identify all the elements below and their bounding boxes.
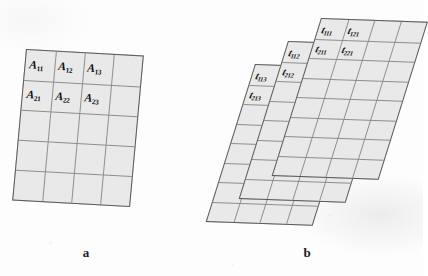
grid-vline <box>71 53 86 203</box>
cell-label-t121: t121 <box>346 26 362 38</box>
cell-label-a12: A12 <box>58 61 74 75</box>
label-subscript: 21 <box>34 95 41 103</box>
cell-label-t211: t211 <box>314 44 329 56</box>
label-subscript: 211 <box>317 49 328 56</box>
label-subscript: 111 <box>323 29 334 36</box>
label-subscript: 112 <box>290 52 301 59</box>
panel-a-caption: a <box>66 245 106 261</box>
label-subscript: 23 <box>91 98 98 106</box>
panel-a-matrix-grid: A11A12A13A21A22A23 <box>12 49 144 207</box>
cell-label-t112: t112 <box>287 48 302 60</box>
label-subscript: 113 <box>257 75 268 82</box>
panel-b-caption: b <box>287 245 327 261</box>
grid-vline <box>100 55 115 205</box>
label-subscript: 212 <box>284 72 295 79</box>
cell-label-a11: A11 <box>29 59 44 73</box>
cell-label-t212: t212 <box>281 67 297 79</box>
label-subscript: 121 <box>349 30 360 37</box>
label-subscript: 213 <box>251 95 262 102</box>
label-subscript: 22 <box>63 96 70 104</box>
cell-label-a13: A13 <box>87 62 103 76</box>
cell-label-t221: t221 <box>340 45 356 57</box>
cell-label-a22: A22 <box>55 91 71 105</box>
label-subscript: 11 <box>36 65 43 73</box>
cell-label-t213: t213 <box>248 90 264 102</box>
grid-vline <box>42 52 57 202</box>
label-subscript: 221 <box>343 50 354 57</box>
cell-label-t113: t113 <box>254 71 269 83</box>
label-subscript: 12 <box>65 67 72 75</box>
cell-label-t111: t111 <box>320 25 335 37</box>
label-subscript: 13 <box>94 68 101 76</box>
cell-label-a21: A21 <box>26 89 42 103</box>
cell-label-a23: A23 <box>84 92 100 106</box>
